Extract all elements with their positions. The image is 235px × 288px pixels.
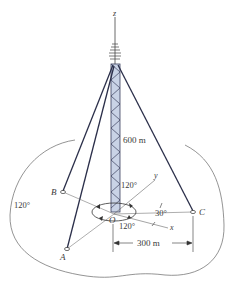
z-axis-label: z [112,9,117,18]
tower-height-label: 600 m [123,135,146,145]
anchor-b [61,190,66,193]
guy-wire-b [63,65,113,191]
angle-label-bottom: 120° [119,221,135,231]
anchor-radius-label: 300 m [137,238,160,248]
anchor-a [65,247,70,250]
angle-label-30: 30° [155,208,167,218]
tower-column [111,64,120,212]
anchor-c [191,210,196,213]
anchor-a-label: A [59,252,66,262]
origin-label: O [109,215,116,225]
y-axis-label: y [153,171,158,180]
anchor-b-label: B [51,187,57,197]
guy-wire-a [67,66,114,249]
guyed-tower-diagram: z 600 m B A C y x O 120° 120° 120° 30° 3… [0,0,235,288]
anchor-c-label: C [199,207,206,217]
x-axis-label: x [169,223,174,232]
angle-label-left: 120° [14,200,30,210]
angle-label-top: 120° [121,180,137,190]
